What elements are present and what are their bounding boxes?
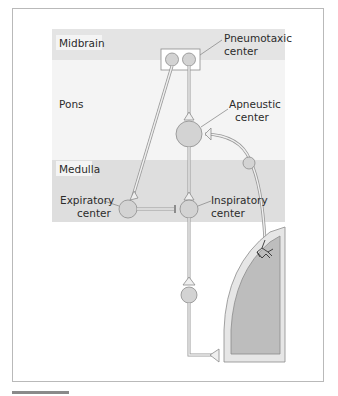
axon-inspiratory-to-motor-neuron [183,218,195,285]
inspiratory-label-line2: center [211,207,245,219]
motor-neuron [181,287,197,303]
respiratory-centers-diagram: Midbrain Pons Medulla Pneumotaxic center… [0,0,338,396]
pneumotaxic-neuron-right [183,53,196,66]
footer-divider [12,391,69,394]
motor-axon-to-muscle [189,303,219,362]
pneumotaxic-label-line1: Pneumotaxic [224,32,292,44]
pneumotaxic-label-line2: center [224,45,258,57]
pneumotaxic-neuron-left [166,53,179,66]
medulla-label: Medulla [59,163,100,175]
pons-label: Pons [59,98,84,110]
apneustic-label-line1: Apneustic [229,98,281,110]
midbrain-label: Midbrain [59,37,105,49]
afferent-ganglion-neuron [243,157,255,169]
expiratory-label-line1: Expiratory [60,194,114,206]
expiratory-label-line2: center [77,207,111,219]
apneustic-label-line2: center [235,111,269,123]
inspiratory-label-line1: Inspiratory [211,194,268,206]
apneustic-center-neuron [176,121,202,147]
inspiratory-center-neuron [180,200,198,218]
expiratory-center-neuron [119,200,137,218]
lung-shape [224,227,285,362]
